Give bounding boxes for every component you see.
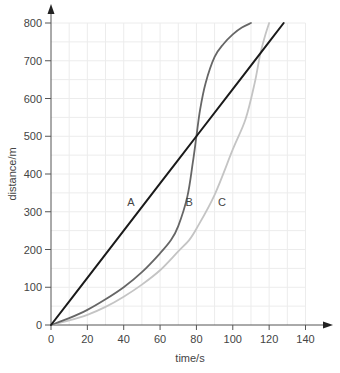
- x-tick-label: 140: [296, 333, 314, 345]
- y-tick-label: 700: [24, 55, 42, 67]
- series-label-c: C: [218, 196, 226, 208]
- y-tick-label: 0: [36, 319, 42, 331]
- distance-time-chart: 020406080100120140 010020030040050060070…: [0, 0, 340, 373]
- y-tick-labels: 0100200300400500600700800: [24, 17, 51, 331]
- x-tick-label: 80: [190, 333, 202, 345]
- x-tick-labels: 020406080100120140: [48, 325, 315, 345]
- y-tick-label: 800: [24, 17, 42, 29]
- x-axis-arrow-icon: [323, 322, 333, 329]
- grid: [51, 23, 306, 325]
- x-tick-label: 120: [260, 333, 278, 345]
- y-tick-label: 300: [24, 206, 42, 218]
- y-axis-arrow-icon: [48, 4, 55, 14]
- y-tick-label: 500: [24, 130, 42, 142]
- y-tick-label: 200: [24, 244, 42, 256]
- series-label-a: A: [127, 196, 135, 208]
- x-tick-label: 40: [118, 333, 130, 345]
- y-tick-label: 100: [24, 281, 42, 293]
- x-tick-label: 0: [48, 333, 54, 345]
- x-tick-label: 20: [81, 333, 93, 345]
- x-tick-label: 60: [154, 333, 166, 345]
- axes: [48, 4, 334, 329]
- y-tick-label: 400: [24, 168, 42, 180]
- x-tick-label: 100: [224, 333, 242, 345]
- x-axis-title: time/s: [175, 352, 205, 364]
- series-label-b: B: [185, 196, 192, 208]
- y-axis-title: distance/m: [6, 147, 18, 200]
- y-tick-label: 600: [24, 93, 42, 105]
